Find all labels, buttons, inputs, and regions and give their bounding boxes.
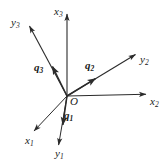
vector-label-q1-subscript: 1 bbox=[70, 114, 74, 123]
origin-label: O bbox=[70, 96, 78, 107]
axes-group bbox=[30, 14, 147, 145]
vector-label-q2: q2 bbox=[85, 60, 94, 73]
axis-label-y2: y2 bbox=[140, 54, 149, 67]
axis-label-y1: y1 bbox=[55, 148, 64, 161]
axis-label-x2-subscript: 2 bbox=[155, 100, 159, 109]
axis-label-y3-subscript: 3 bbox=[16, 21, 20, 30]
axis-label-x1: x1 bbox=[25, 135, 34, 148]
vector-label-q3-subscript: 3 bbox=[40, 66, 44, 75]
vector-line-q3 bbox=[53, 67, 68, 97]
axis-label-x1-subscript: 1 bbox=[30, 139, 34, 148]
vector-diagram-figure: x3 x2 x1 y1 y2 y3 q1 q2 q3 O bbox=[0, 0, 166, 165]
axis-label-x2: x2 bbox=[150, 96, 159, 109]
axis-label-x3: x3 bbox=[54, 6, 63, 19]
axis-label-x3-subscript: 3 bbox=[59, 10, 63, 19]
axis-label-y2-subscript: 2 bbox=[145, 58, 149, 67]
vector-label-q3: q3 bbox=[34, 62, 43, 75]
axis-label-y1-subscript: 1 bbox=[60, 152, 64, 161]
axis-line-x2 bbox=[67, 94, 146, 96]
vector-label-q2-subscript: 2 bbox=[91, 64, 95, 73]
vector-line-q2 bbox=[67, 79, 96, 96]
vector-label-q1: q1 bbox=[64, 110, 73, 123]
axis-label-y3: y3 bbox=[11, 17, 20, 30]
